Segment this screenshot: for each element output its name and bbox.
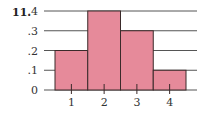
- y-tick-label: 0: [31, 84, 38, 97]
- histogram-bar: [121, 31, 154, 90]
- y-tick-label: .4: [28, 5, 39, 18]
- x-tick-label: 1: [68, 96, 75, 109]
- x-axis-labels: 1234: [68, 96, 173, 109]
- y-tick-label: .3: [28, 25, 39, 38]
- y-tick-label: .1: [28, 64, 39, 77]
- y-tick-label: .2: [28, 45, 39, 58]
- bars: [55, 11, 186, 94]
- histogram-bar: [88, 11, 121, 90]
- histogram-chart: 11. 0.1.2.3.4 1234: [0, 0, 207, 116]
- x-tick-label: 2: [101, 96, 108, 109]
- x-tick-label: 4: [166, 96, 173, 109]
- x-tick-label: 3: [133, 96, 140, 109]
